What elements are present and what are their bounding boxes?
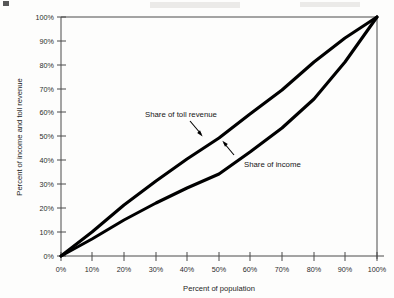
y-tick-label: 40% xyxy=(40,156,55,165)
x-tick-label: 100% xyxy=(368,265,387,274)
x-tick-label: 80% xyxy=(307,265,322,274)
y-axis-title: Percent of income and toll revenue xyxy=(15,78,24,195)
annotation-label-income: Share of income xyxy=(244,160,301,169)
x-tick-label: 20% xyxy=(117,265,132,274)
curve-share-of-toll-revenue xyxy=(61,17,377,256)
y-tick-label: 80% xyxy=(40,61,55,70)
x-tick-label: 60% xyxy=(243,265,258,274)
y-tick-label: 90% xyxy=(40,37,55,46)
x-tick-label: 50% xyxy=(212,265,227,274)
x-tick-label: 0% xyxy=(56,265,67,274)
annotation-share-of-toll-revenue: Share of toll revenue xyxy=(145,110,217,136)
x-tick-label: 90% xyxy=(338,265,353,274)
y-tick-label: 100% xyxy=(36,13,55,22)
x-tick-label: 40% xyxy=(180,265,195,274)
x-axis-title: Percent of population xyxy=(183,284,255,293)
x-axis-tick-labels: 0% 10% 20% 30% 40% 50% 60% 70% 80% 90% 1… xyxy=(56,265,387,274)
y-tick-label: 60% xyxy=(40,108,55,117)
annotation-label-toll-revenue: Share of toll revenue xyxy=(145,110,217,119)
y-tick-label: 30% xyxy=(40,180,55,189)
x-tick-label: 30% xyxy=(149,265,164,274)
lorenz-curve-chart: 100% 90% 80% 70% 60% 50% 40% 30% 20% 10%… xyxy=(0,0,394,298)
x-tick-label: 10% xyxy=(85,265,100,274)
y-tick-label: 20% xyxy=(40,204,55,213)
y-axis-tick-labels: 100% 90% 80% 70% 60% 50% 40% 30% 20% 10%… xyxy=(36,13,55,261)
y-tick-label: 10% xyxy=(40,228,55,237)
y-tick-label: 70% xyxy=(40,85,55,94)
y-tick-label: 50% xyxy=(40,132,55,141)
chart-canvas: 100% 90% 80% 70% 60% 50% 40% 30% 20% 10%… xyxy=(0,0,394,298)
y-tick-label: 0% xyxy=(44,252,55,261)
x-tick-label: 70% xyxy=(275,265,290,274)
plot-frame xyxy=(61,17,384,259)
